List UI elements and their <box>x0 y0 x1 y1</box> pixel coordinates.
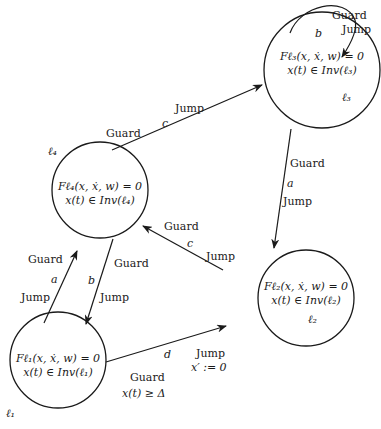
edge-l1-l2-jump: Jump <box>196 348 225 360</box>
edge-l1-l2-event: d <box>164 349 171 361</box>
edge-l1-l4-jump: Jump <box>21 292 50 304</box>
location-l2-text: Fℓ₂(x, ẋ, w) = 0 x(t) ∈ Inv(ℓ₂) <box>256 280 356 308</box>
edge-l1-l4-guard: Guard <box>28 254 63 266</box>
edge-l4-l1-jump: Jump <box>100 292 129 304</box>
location-l4-flow: Fℓ₄(x, ẋ, w) = 0 <box>50 180 150 194</box>
edge-l4-l1-event: b <box>88 275 95 287</box>
edge-l2-l4-jump: Jump <box>206 251 235 263</box>
edge-l4-l3-guard: Guard <box>106 128 141 140</box>
edge-l1-l4-event: a <box>51 274 58 286</box>
location-l4-text: Fℓ₄(x, ẋ, w) = 0 x(t) ∈ Inv(ℓ₄) <box>50 180 150 208</box>
edge-l3-self-jump: Jump <box>342 24 371 36</box>
edge-l1-l2-guard-condition: x(t) ≥ Δ <box>122 388 165 400</box>
location-l3-label: ℓ₃ <box>342 92 351 104</box>
edge-l4-l3-event: c <box>162 118 168 130</box>
location-l3-text: Fℓ₃(x, ẋ, w) = 0 x(t) ∈ Inv(ℓ₃) <box>272 50 372 78</box>
edge-l4-to-l3 <box>112 85 262 150</box>
location-l2-flow: Fℓ₂(x, ẋ, w) = 0 <box>256 280 356 294</box>
edge-l1-l2-guard: Guard <box>130 372 165 384</box>
edge-l1-l2-jump-reset: x′ := 0 <box>191 362 227 374</box>
edge-l3-l2-jump: Jump <box>283 196 312 208</box>
edge-l3-l2-event: a <box>287 178 294 190</box>
edge-l3-self-guard: Guard <box>332 10 367 22</box>
location-l4-invariant: x(t) ∈ Inv(ℓ₄) <box>50 194 150 208</box>
location-l3-invariant: x(t) ∈ Inv(ℓ₃) <box>272 64 372 78</box>
edge-l4-l3-jump: Jump <box>175 103 204 115</box>
location-l3-flow: Fℓ₃(x, ẋ, w) = 0 <box>272 50 372 64</box>
location-l2-invariant: x(t) ∈ Inv(ℓ₂) <box>256 294 356 308</box>
edge-l2-l4-guard: Guard <box>164 221 199 233</box>
edge-l3-l2-guard: Guard <box>290 158 325 170</box>
edge-l3-self-event: b <box>315 28 322 40</box>
location-l1-text: Fℓ₁(x, ẋ, w) = 0 x(t) ∈ Inv(ℓ₁) <box>8 352 108 380</box>
location-l4-label: ℓ₄ <box>48 146 57 158</box>
location-l1-invariant: x(t) ∈ Inv(ℓ₁) <box>8 366 108 380</box>
location-l1-flow: Fℓ₁(x, ẋ, w) = 0 <box>8 352 108 366</box>
location-l2-label: ℓ₂ <box>308 314 317 326</box>
location-l1-label: ℓ₁ <box>6 408 15 420</box>
edge-l2-l4-event: c <box>187 238 193 250</box>
edge-l4-l1-guard: Guard <box>114 258 149 270</box>
